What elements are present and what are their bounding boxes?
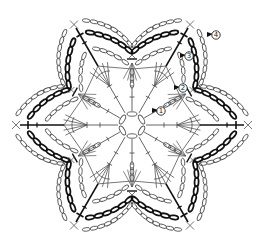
- round-marker-label: 4: [214, 31, 219, 39]
- round-marker-4: 4: [207, 31, 220, 40]
- round-marker-label: 3: [187, 52, 191, 60]
- round-marker-label: 1: [159, 107, 163, 115]
- round-marker-1: 1: [152, 107, 165, 116]
- crochet-chart: 1234: [0, 0, 270, 250]
- round-marker-2: 2: [174, 84, 187, 93]
- motif: [12, 18, 252, 231]
- round-marker-label: 2: [181, 84, 185, 92]
